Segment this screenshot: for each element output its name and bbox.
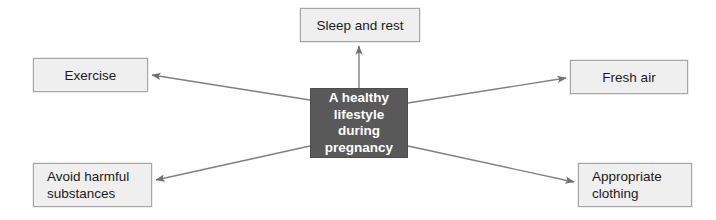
node-exercise-label: Exercise (34, 67, 147, 84)
node-center-label: A healthy lifestyle during pregnancy (311, 90, 407, 156)
node-center-healthy-lifestyle[interactable]: A healthy lifestyle during pregnancy (310, 88, 408, 158)
arrow-to-fresh-air (408, 78, 566, 103)
node-sleep-and-rest-label: Sleep and rest (301, 17, 419, 34)
node-appropriate-clothing[interactable]: Appropriate clothing (578, 163, 692, 207)
node-fresh-air[interactable]: Fresh air (570, 60, 688, 94)
arrow-to-exercise (152, 75, 310, 100)
node-fresh-air-label: Fresh air (571, 69, 687, 86)
node-sleep-and-rest[interactable]: Sleep and rest (300, 8, 420, 42)
arrow-to-appropriate-clothing (408, 146, 574, 182)
node-avoid-harmful-substances-label: Avoid harmful substances (34, 168, 151, 202)
node-avoid-harmful-substances[interactable]: Avoid harmful substances (33, 163, 152, 207)
diagram-canvas: A healthy lifestyle during pregnancy Sle… (0, 0, 716, 220)
node-exercise[interactable]: Exercise (33, 58, 148, 92)
arrow-to-avoid-harmful-substances (156, 146, 310, 180)
node-appropriate-clothing-label: Appropriate clothing (579, 168, 691, 202)
